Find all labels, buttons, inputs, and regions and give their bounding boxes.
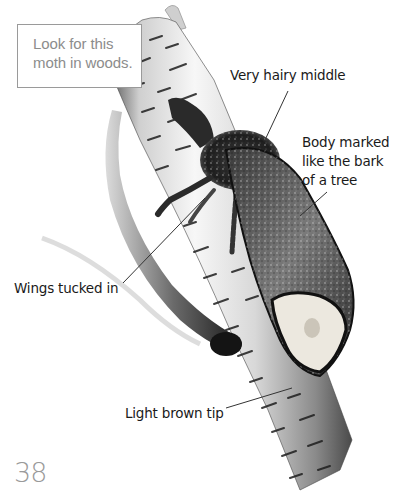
leader-hairy-middle xyxy=(265,91,288,140)
label-tip: Light brown tip xyxy=(125,404,224,423)
info-line: Look for this xyxy=(33,34,133,53)
label-text: Wings tucked in xyxy=(14,279,118,298)
label-wings: Wings tucked in xyxy=(14,279,118,298)
label-text: like the bark xyxy=(302,152,389,171)
label-hairy-middle: Very hairy middle xyxy=(230,66,345,85)
label-text: Body marked xyxy=(302,133,389,152)
label-text: of a tree xyxy=(302,171,389,190)
label-body-marked: Body marked like the bark of a tree xyxy=(302,133,389,190)
page-number: 38 xyxy=(14,458,46,488)
label-text: Light brown tip xyxy=(125,404,224,423)
info-line: moth in woods. xyxy=(33,53,133,72)
label-text: Very hairy middle xyxy=(230,66,345,85)
info-box: Look for this moth in woods. xyxy=(17,24,142,88)
